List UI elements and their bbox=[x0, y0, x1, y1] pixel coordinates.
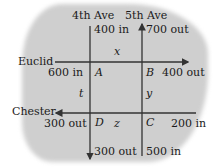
flow-fourth-top: 400 in bbox=[94, 24, 129, 36]
flow-euclid-left: 600 in bbox=[48, 67, 83, 79]
var-y: y bbox=[146, 88, 152, 100]
flow-fourth-bottom: 300 out bbox=[94, 146, 137, 158]
var-t: t bbox=[79, 88, 83, 100]
flow-euclid-right: 400 out bbox=[162, 67, 205, 79]
flow-fifth-bottom: 500 in bbox=[146, 146, 181, 158]
var-x: x bbox=[114, 46, 120, 58]
node-d: D bbox=[95, 117, 104, 129]
node-a: A bbox=[95, 67, 103, 79]
node-c: C bbox=[146, 117, 154, 129]
node-b: B bbox=[146, 67, 154, 79]
flow-chester-left: 300 out bbox=[44, 118, 87, 130]
var-z: z bbox=[114, 118, 120, 130]
fourth-ave-label: 4th Ave bbox=[72, 10, 114, 22]
flow-chester-right: 200 in bbox=[171, 118, 206, 130]
flow-fifth-top: 700 out bbox=[146, 24, 189, 36]
fifth-ave-label: 5th Ave bbox=[125, 10, 167, 22]
